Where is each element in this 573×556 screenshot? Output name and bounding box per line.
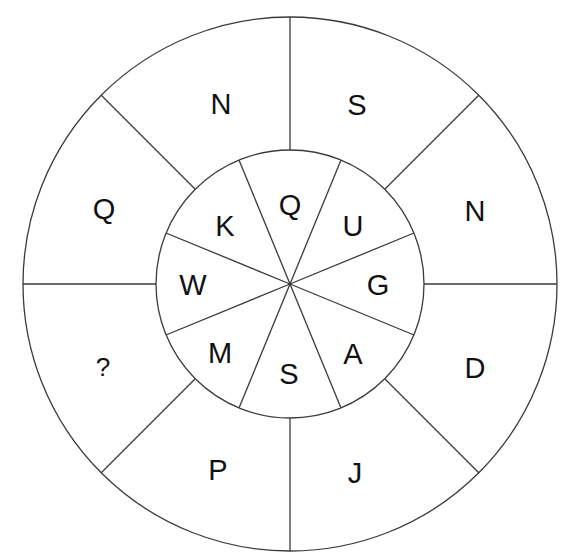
- outer-letter-right-upper: N: [465, 195, 486, 227]
- inner-letter-bottom-right: A: [343, 338, 363, 370]
- inner-letter-bottom: S: [279, 358, 298, 390]
- outer-letter-bottom-right: J: [348, 457, 363, 489]
- outer-letter-right-lower: D: [465, 352, 486, 384]
- outer-letter-top-right: S: [347, 89, 366, 121]
- outer-divider-top-left: [101, 95, 195, 189]
- outer-letter-left-upper: Q: [93, 193, 116, 225]
- outer-letter-top-left: N: [211, 88, 232, 120]
- inner-divider-3: [290, 284, 414, 335]
- outer-divider-bottom-right: [385, 379, 479, 473]
- outer-letter-bottom-left: P: [208, 454, 227, 486]
- inner-letter-top-right: U: [343, 210, 364, 242]
- inner-letters: Q U G A S M W K: [179, 189, 389, 390]
- inner-divider-1: [290, 160, 341, 284]
- outer-divider-top-right: [385, 95, 479, 189]
- letter-wheel-puzzle: Q U G A S M W K S N D J P ? Q N: [0, 0, 573, 556]
- inner-letter-top: Q: [279, 189, 302, 221]
- inner-letter-left: W: [179, 269, 207, 301]
- missing-letter-question-mark: ?: [96, 352, 110, 382]
- inner-letter-right: G: [367, 269, 390, 301]
- inner-divider-8: [239, 160, 290, 284]
- inner-letter-top-left: K: [215, 210, 235, 242]
- inner-letter-bottom-left: M: [208, 337, 232, 369]
- outer-divider-bottom-left: [101, 379, 195, 473]
